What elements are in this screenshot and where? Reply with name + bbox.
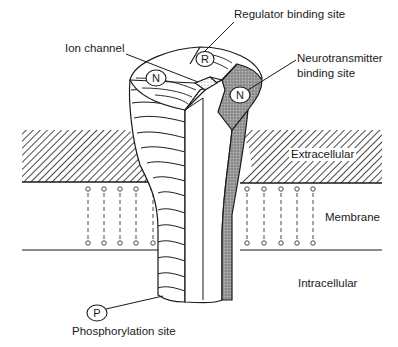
svg-text:R: R [201,53,209,65]
extracellular-label: Extracellular [289,148,356,161]
regulator-binding-site-label: Regulator binding site [234,8,345,21]
svg-text:N: N [236,89,244,101]
membrane-label: Membrane [325,211,380,224]
ion-channel-protein [129,47,262,303]
neurotransmitter-site-left-marker: N [146,70,166,86]
svg-text:P: P [93,307,100,319]
neurotransmitter-site-right-marker: N [230,87,250,103]
intracellular-label: Intracellular [298,277,357,290]
svg-text:N: N [152,72,160,84]
ion-channel-diagram: N R N P Regulator binding site Ion chann… [0,0,398,347]
phosphorylation-site-marker: P [87,305,107,321]
ion-channel-label: Ion channel [65,42,124,55]
lipid-bilayer-right [245,187,315,245]
regulator-site-marker: R [196,52,214,67]
neurotransmitter-binding-site-label-line2: binding site [297,67,355,80]
neurotransmitter-binding-site-label-line1: Neurotransmitter [297,52,383,65]
phosphorylation-site-label: Phosphorylation site [72,325,176,338]
lipid-bilayer-left [86,187,155,245]
